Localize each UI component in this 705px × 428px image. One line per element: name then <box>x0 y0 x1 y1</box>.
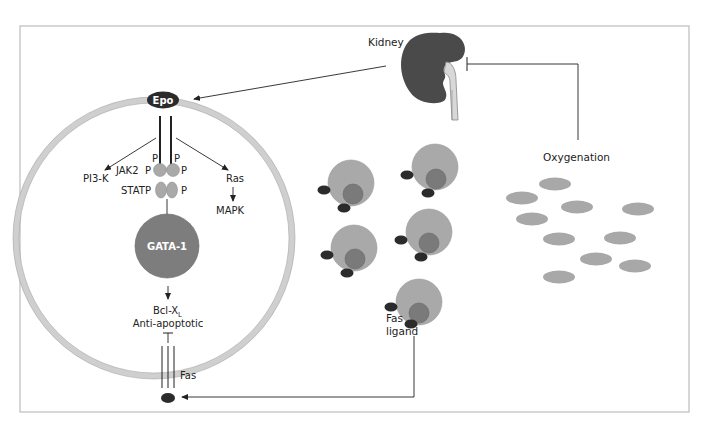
mapk-label: MAPK <box>216 205 244 216</box>
rbc-icon <box>561 201 593 214</box>
rbc-icon <box>543 271 575 284</box>
rbc-icon <box>506 192 538 205</box>
ras-label: Ras <box>226 173 244 184</box>
gata1-label: GATA-1 <box>147 241 187 252</box>
p-label: P <box>174 153 180 164</box>
p-label: P <box>181 185 187 196</box>
rbc-icon <box>539 178 571 191</box>
jak2-label: JAK2 <box>115 165 139 176</box>
epo-label: Epo <box>153 95 174 106</box>
oxygenation-label: Oxygenation <box>543 151 610 163</box>
stat-label: STAT <box>121 185 146 196</box>
p-label: P <box>145 185 151 196</box>
rbc-icon <box>516 213 548 226</box>
figure-frame <box>20 26 689 412</box>
stat-left <box>156 182 167 198</box>
p-label: P <box>145 165 151 176</box>
fas-label: Fas <box>180 370 196 381</box>
fas-ligand-label-1: Fas <box>386 312 403 324</box>
rbc-icon <box>622 203 654 216</box>
erythropoiesis-diagram: Kidney Oxygenation <box>0 0 705 428</box>
pi3k-label: PI3-K <box>83 173 109 184</box>
p-label: P <box>152 153 158 164</box>
p-label: P <box>181 165 187 176</box>
rbc-icon <box>619 260 651 273</box>
rbc-icon <box>580 253 612 266</box>
stat-right <box>167 182 178 198</box>
jak2-left <box>154 164 167 177</box>
fas-ligand-label-2: ligand <box>386 325 418 337</box>
rbc-icon <box>543 233 575 246</box>
rbc-icon <box>604 232 636 245</box>
anti-apoptotic-label: Anti-apoptotic <box>133 318 204 329</box>
jak2-right <box>167 164 180 177</box>
kidney-label: Kidney <box>368 36 404 48</box>
fas-ligand-molecule <box>161 393 175 403</box>
